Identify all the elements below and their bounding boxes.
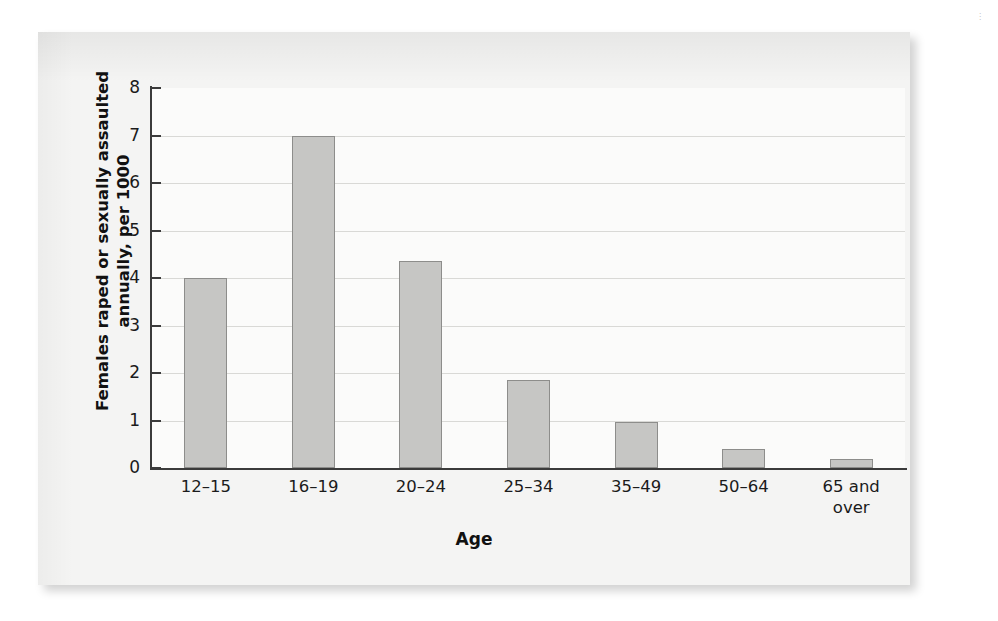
x-axis-tick-label: 35–49	[581, 476, 691, 497]
bar	[830, 459, 873, 469]
bar	[615, 422, 658, 468]
x-axis-tick-label-line: 65 and	[796, 476, 906, 497]
x-axis-tick-label: 65 andover	[796, 476, 906, 518]
x-axis-tick-label: 50–64	[689, 476, 799, 497]
x-axis-tick-label: 20–24	[366, 476, 476, 497]
x-axis-tick-label: 16–19	[258, 476, 368, 497]
bar	[399, 261, 442, 468]
y-axis-title: Females raped or sexually assaulted annu…	[92, 45, 134, 437]
x-axis-tick-label: 25–34	[474, 476, 584, 497]
y-axis-tick-label: 0	[114, 457, 140, 477]
page-margin-artifact: ⋮	[976, 10, 994, 84]
x-axis-title: Age	[38, 529, 910, 549]
y-axis-title-line-2: annually, per 1000	[113, 45, 134, 437]
x-axis-tick-labels: 12–1516–1920–2425–3435–4950–6465 andover	[152, 476, 905, 532]
x-axis-tick-label-line: 35–49	[581, 476, 691, 497]
x-axis-tick-label-line: 16–19	[258, 476, 368, 497]
x-axis-tick-label-line: over	[796, 497, 906, 518]
bar	[507, 380, 550, 468]
bar-series	[152, 88, 905, 468]
x-axis-tick-label-line: 12–15	[151, 476, 261, 497]
x-axis-tick-label-line: 25–34	[474, 476, 584, 497]
bar	[722, 449, 765, 468]
figure-card: 876543210 12–1516–1920–2425–3435–4950–64…	[38, 32, 910, 585]
figure-page: ⋮ 876543210 12–1516–1920–2425–3435–4950–…	[0, 0, 998, 621]
bar	[292, 136, 335, 469]
x-axis-tick-label: 12–15	[151, 476, 261, 497]
x-axis-line	[150, 468, 907, 470]
x-axis-tick-label-line: 50–64	[689, 476, 799, 497]
bar	[184, 278, 227, 468]
y-axis-title-line-1: Females raped or sexually assaulted	[93, 71, 112, 411]
x-axis-tick-label-line: 20–24	[366, 476, 476, 497]
